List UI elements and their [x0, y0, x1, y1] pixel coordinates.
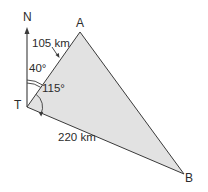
side-TB-length-label: 220 km: [58, 131, 96, 143]
side-TA-length-label: 105 km: [32, 37, 70, 49]
angle-arc-40: [27, 83, 41, 87]
point-T-label: T: [14, 99, 21, 111]
angle-40-label: 40°: [29, 62, 46, 74]
angle-115-label: 115°: [42, 82, 65, 94]
bearing-diagram: [0, 0, 208, 192]
north-label: N: [23, 11, 32, 23]
point-A-label: A: [76, 17, 84, 29]
triangle-TAB: [27, 32, 184, 174]
point-B-label: B: [185, 172, 193, 184]
north-arrow-icon: [25, 27, 30, 34]
